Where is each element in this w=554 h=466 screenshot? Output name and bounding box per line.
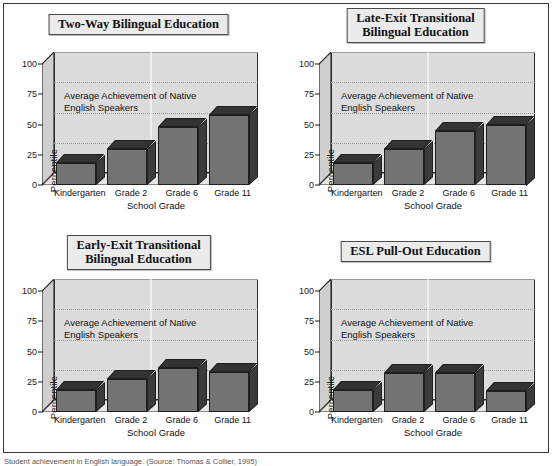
x-tick-label-2: Grade 6 — [156, 188, 207, 198]
panel-title-line2: Bilingual Education — [76, 252, 200, 266]
bar-side-face — [526, 116, 535, 185]
bar-side-face — [249, 107, 258, 185]
y-tickmark-25 — [315, 381, 320, 382]
bar-front-face — [158, 368, 198, 412]
x-tick-labels: KindergartenGrade 2Grade 6Grade 11 — [54, 415, 258, 425]
x-tick-label-2: Grade 6 — [156, 415, 207, 425]
bar-front-face — [486, 125, 526, 186]
bar-side-face — [198, 119, 207, 185]
y-tickmark-50 — [38, 124, 43, 125]
bar-front-face — [107, 379, 147, 412]
plot-area: 1007550250PercentileAverage Achievement … — [42, 52, 258, 185]
x-tick-label-0: Kindergarten — [331, 415, 383, 425]
bar-front-face — [333, 163, 373, 185]
plot-area: 1007550250PercentileAverage Achievement … — [42, 279, 258, 412]
bar-grade-11[interactable] — [486, 391, 526, 412]
bar-front-face — [435, 373, 475, 412]
y-tickmark-50 — [38, 351, 43, 352]
bar-kindergarten[interactable] — [333, 390, 373, 412]
x-tick-label-0: Kindergarten — [54, 188, 106, 198]
bar-front-face — [209, 372, 249, 412]
bar-kindergarten[interactable] — [56, 163, 96, 185]
bar-front-face — [56, 163, 96, 185]
bar-grade-11[interactable] — [209, 372, 249, 412]
bar-front-face — [384, 373, 424, 412]
x-tick-label-2: Grade 6 — [433, 188, 484, 198]
bar-series — [54, 52, 258, 173]
x-tick-label-1: Grade 2 — [383, 188, 434, 198]
bar-series — [54, 279, 258, 400]
bar-side-face — [147, 141, 156, 185]
bar-front-face — [333, 390, 373, 412]
panel-title-line1: ESL Pull-Out Education — [350, 244, 481, 258]
x-axis-label: School Grade — [54, 200, 258, 211]
y-tickmark-25 — [38, 381, 43, 382]
bar-grade-2[interactable] — [384, 149, 424, 185]
x-tick-label-1: Grade 2 — [106, 415, 157, 425]
x-tick-label-3: Grade 11 — [484, 415, 535, 425]
y-tickmark-75 — [38, 321, 43, 322]
x-tick-labels: KindergartenGrade 2Grade 6Grade 11 — [54, 188, 258, 198]
bar-grade-2[interactable] — [107, 379, 147, 412]
x-tick-labels: KindergartenGrade 2Grade 6Grade 11 — [331, 415, 535, 425]
y-tickmark-100 — [38, 291, 43, 292]
y-tickmark-100 — [38, 64, 43, 65]
bar-grade-11[interactable] — [486, 125, 526, 186]
x-tick-label-1: Grade 2 — [383, 415, 434, 425]
chart-panel-4: ESL Pull-Out Education1007550250Percenti… — [277, 227, 554, 454]
x-tick-label-0: Kindergarten — [331, 188, 383, 198]
panel-title: ESL Pull-Out Education — [340, 241, 491, 262]
panel-title-line1: Early-Exit Transitional — [76, 238, 200, 252]
y-tickmark-25 — [315, 154, 320, 155]
bar-front-face — [158, 127, 198, 185]
chart-panel-grid: Two-Way Bilingual Education1007550250Per… — [0, 0, 554, 454]
bar-side-face — [475, 122, 484, 185]
panel-title: Two-Way Bilingual Education — [48, 14, 229, 35]
y-tickmark-100 — [315, 64, 320, 65]
bar-grade-6[interactable] — [435, 373, 475, 412]
bar-side-face — [424, 141, 433, 185]
x-tick-label-0: Kindergarten — [54, 415, 106, 425]
bar-side-face — [249, 364, 258, 412]
y-tickmark-0 — [38, 185, 43, 186]
y-tickmark-0 — [315, 185, 320, 186]
bar-grade-2[interactable] — [107, 149, 147, 185]
chart-panel-1: Two-Way Bilingual Education1007550250Per… — [0, 0, 277, 227]
x-tick-label-3: Grade 11 — [207, 415, 258, 425]
x-tick-label-2: Grade 6 — [433, 415, 484, 425]
panel-title: Late-Exit TransitionalBilingual Educatio… — [346, 8, 485, 43]
y-tickmark-25 — [38, 154, 43, 155]
y-tickmark-0 — [315, 412, 320, 413]
bar-front-face — [435, 131, 475, 185]
bar-series — [331, 279, 535, 400]
bar-grade-2[interactable] — [384, 373, 424, 412]
bar-side-face — [198, 360, 207, 412]
bar-series — [331, 52, 535, 173]
bar-front-face — [107, 149, 147, 185]
x-axis-label: School Grade — [54, 427, 258, 438]
bar-side-face — [424, 365, 433, 412]
panel-title-line1: Late-Exit Transitional — [356, 11, 475, 25]
bar-side-face — [147, 371, 156, 412]
y-tickmark-100 — [315, 291, 320, 292]
x-tick-label-3: Grade 11 — [484, 188, 535, 198]
bar-front-face — [486, 391, 526, 412]
bar-grade-6[interactable] — [435, 131, 475, 185]
y-tickmark-75 — [38, 94, 43, 95]
y-tickmark-75 — [315, 94, 320, 95]
x-axis-label: School Grade — [331, 200, 535, 211]
bar-front-face — [209, 115, 249, 185]
bar-kindergarten[interactable] — [56, 390, 96, 412]
x-tick-labels: KindergartenGrade 2Grade 6Grade 11 — [331, 188, 535, 198]
y-tickmark-0 — [38, 412, 43, 413]
bar-grade-11[interactable] — [209, 115, 249, 185]
bar-side-face — [475, 365, 484, 412]
bar-kindergarten[interactable] — [333, 163, 373, 185]
y-tickmark-50 — [315, 351, 320, 352]
bar-grade-6[interactable] — [158, 368, 198, 412]
plot-area: 1007550250PercentileAverage Achievement … — [319, 279, 535, 412]
y-tickmark-75 — [315, 321, 320, 322]
bar-grade-6[interactable] — [158, 127, 198, 185]
x-axis-label: School Grade — [331, 427, 535, 438]
figure-caption: Student achievement in English language.… — [4, 457, 257, 466]
